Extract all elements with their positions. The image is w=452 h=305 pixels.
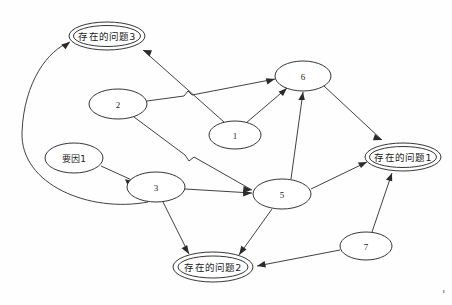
node-3[interactable]: 3 <box>127 172 185 202</box>
edge-5-to-6 <box>291 92 305 179</box>
node-6-label: 6 <box>301 72 306 82</box>
node-2-label: 2 <box>116 100 121 110</box>
node-problem1-label: 存在的问题1 <box>374 152 431 163</box>
edge-1-to-problem3 <box>143 50 224 122</box>
edge-3-to-5 <box>185 189 252 197</box>
edge-7-to-problem1 <box>372 173 392 232</box>
edge-3-to-problem3 <box>22 42 148 204</box>
node-5[interactable]: 5 <box>253 179 311 209</box>
node-problem3-label: 存在的问题3 <box>78 31 135 42</box>
node-3-label: 3 <box>154 183 159 193</box>
node-yaoyin1-label: 要因1 <box>62 154 86 164</box>
edge-7-to-problem2 <box>257 250 340 267</box>
node-problem2[interactable]: 存在的问题2 <box>173 252 253 282</box>
node-layer: 存在的问题3 2 6 1 要因1 <box>45 22 441 282</box>
node-7[interactable]: 7 <box>340 232 392 260</box>
diagram-canvas: 存在的问题3 2 6 1 要因1 <box>0 0 452 305</box>
edge-2-to-6 <box>147 78 275 101</box>
node-6[interactable]: 6 <box>275 61 331 91</box>
edge-3-to-problem2 <box>163 202 189 254</box>
node-1[interactable]: 1 <box>209 121 261 149</box>
node-yaoyin1[interactable]: 要因1 <box>45 143 103 173</box>
node-2[interactable]: 2 <box>89 89 147 119</box>
node-1-label: 1 <box>233 131 238 141</box>
scan-speck <box>443 290 445 293</box>
edge-5-to-problem2 <box>239 209 272 255</box>
graph-svg: 存在的问题3 2 6 1 要因1 <box>0 0 452 305</box>
edge-5-to-problem1 <box>311 162 367 189</box>
node-problem1[interactable]: 存在的问题1 <box>365 143 441 171</box>
edge-6-to-problem1 <box>324 86 382 140</box>
node-problem2-label: 存在的问题2 <box>184 262 241 273</box>
node-problem3[interactable]: 存在的问题3 <box>69 22 145 50</box>
node-7-label: 7 <box>364 242 369 252</box>
node-5-label: 5 <box>280 190 285 200</box>
edge-1-to-6 <box>246 88 287 123</box>
